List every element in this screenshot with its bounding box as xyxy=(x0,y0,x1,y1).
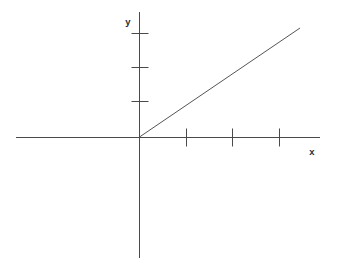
x-axis-label: x xyxy=(309,146,315,157)
graph-figure: y x xyxy=(0,0,337,276)
cartesian-plot: y x xyxy=(0,0,337,276)
y-axis-label: y xyxy=(125,16,131,27)
